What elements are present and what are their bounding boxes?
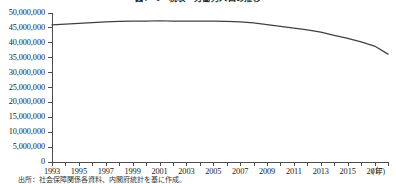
chart-figure: 図4－1 税収・労働力人口の推移 50,000,00045,000,00040,…	[0, 0, 396, 184]
plot-area	[52, 13, 388, 162]
source-note: 出所：社会保障関係各資料、内閣府統計を基に作成。	[18, 176, 186, 184]
